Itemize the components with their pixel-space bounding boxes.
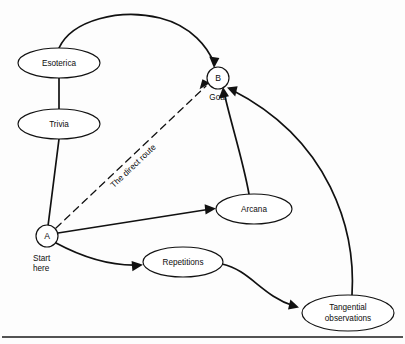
edge-a-to-repetitions-path [56,243,138,265]
edge-a-to-arcana-path [58,209,211,233]
edge-repetitions-to-tangential-arrowhead [288,299,299,309]
edge-a-to-b-direct-path [56,86,206,228]
node-a-label: A [44,231,50,241]
node-trivia[interactable]: Trivia [18,109,100,139]
node-b-caption-goal: Goal [209,93,226,102]
node-esoterica-label: Esoterica [42,59,77,68]
edge-a-to-b-direct [56,79,210,228]
node-repetitions-label: Repetitions [163,258,204,267]
node-tangential-observations[interactable]: Tangential observations [302,295,394,331]
edge-repetitions-to-tangential [222,264,299,310]
node-tangential-label-line1: Tangential [329,303,367,312]
edge-trivia-to-a-path [48,139,59,226]
node-arcana[interactable]: Arcana [216,194,292,224]
node-esoterica[interactable]: Esoterica [18,48,100,78]
edge-tangential-to-b [227,86,352,295]
edge-tangential-to-b-arrowhead [227,86,238,96]
node-a-start[interactable]: A Start here [33,225,58,273]
edge-a-to-arcana-arrowhead [205,204,216,214]
edge-esoterica-to-b-arrowhead [209,57,219,68]
node-b-label: B [215,73,221,83]
edge-tangential-to-b-path [232,90,352,295]
edge-arcana-to-b-path [224,92,249,194]
edge-arcana-to-b [219,87,249,194]
edge-a-to-arcana [58,204,216,233]
edge-label-direct-route-text: The direct route [108,142,158,190]
node-a-caption-line2: here [33,264,50,273]
node-repetitions[interactable]: Repetitions [143,247,223,277]
node-arcana-label: Arcana [241,205,267,214]
edge-a-to-repetitions-arrowhead [132,261,143,271]
flow-diagram: The direct route Esoterica Trivia B Goal… [0,0,405,344]
node-trivia-label: Trivia [49,120,69,129]
node-b-goal[interactable]: B Goal [207,67,229,102]
edge-a-to-repetitions [56,243,143,271]
node-a-caption-line1: Start [33,254,51,263]
edge-label-direct-route: The direct route [108,142,158,190]
node-tangential-shape[interactable] [302,295,394,331]
node-tangential-label-line2: observations [325,314,371,323]
diagram-canvas: The direct route Esoterica Trivia B Goal… [0,0,405,344]
edge-repetitions-to-tangential-path [222,264,294,306]
